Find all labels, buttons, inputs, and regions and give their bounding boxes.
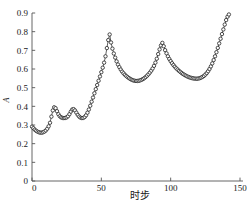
- data-point-marker: [213, 55, 216, 58]
- y-axis: [32, 13, 35, 181]
- y-tick-label: 0.5: [17, 83, 29, 93]
- data-point-marker: [47, 125, 50, 128]
- data-point-marker: [102, 61, 105, 64]
- data-point-marker: [48, 121, 51, 124]
- data-point-marker: [112, 52, 115, 55]
- data-point-marker: [223, 23, 226, 26]
- y-tick-label: 0.8: [17, 27, 29, 37]
- series-markers: [30, 13, 230, 135]
- data-point-marker: [215, 51, 218, 54]
- y-tick-label: 0: [24, 176, 29, 186]
- y-tick-label: 0.9: [17, 8, 29, 18]
- data-point-marker: [216, 46, 219, 49]
- series-line: [32, 14, 229, 132]
- chart-figure: 00.10.20.30.40.50.60.70.80.9 050100150 A…: [0, 0, 248, 203]
- data-point-marker: [94, 87, 97, 90]
- data-point-marker: [212, 58, 215, 61]
- x-tick-marks: [32, 178, 240, 181]
- x-tick-label: 50: [97, 183, 107, 193]
- data-point-marker: [101, 66, 104, 69]
- data-point-marker: [105, 46, 108, 49]
- data-point-marker: [97, 79, 100, 82]
- y-tick-marks: [32, 13, 35, 181]
- x-tick-label: 150: [233, 183, 247, 193]
- x-axis: [32, 178, 243, 181]
- chart-canvas: 00.10.20.30.40.50.60.70.80.9 050100150 A…: [0, 0, 248, 203]
- data-point-marker: [218, 42, 221, 45]
- data-point-marker: [95, 83, 98, 86]
- data-point-marker: [155, 57, 158, 60]
- y-axis-title: A: [2, 97, 11, 103]
- data-point-marker: [91, 96, 94, 99]
- y-tick-label: 0.2: [17, 139, 28, 149]
- data-point-marker: [224, 18, 227, 21]
- data-point-marker: [220, 32, 223, 35]
- y-tick-label: 0.1: [17, 158, 28, 168]
- data-point-marker: [211, 62, 214, 65]
- data-point-marker: [219, 37, 222, 40]
- data-point-marker: [100, 70, 103, 73]
- data-series: [30, 13, 230, 135]
- data-point-marker: [87, 108, 90, 111]
- data-point-marker: [98, 75, 101, 78]
- data-point-marker: [227, 13, 230, 16]
- data-point-marker: [104, 55, 107, 58]
- data-point-marker: [50, 115, 53, 118]
- data-point-marker: [158, 48, 161, 51]
- data-point-marker: [222, 28, 225, 31]
- y-tick-label: 0.4: [17, 102, 29, 112]
- data-point-marker: [93, 92, 96, 95]
- data-point-marker: [161, 41, 164, 44]
- data-point-marker: [156, 52, 159, 55]
- data-point-marker: [109, 41, 112, 44]
- y-tick-label: 0.7: [17, 46, 29, 56]
- y-tick-label: 0.3: [17, 120, 29, 130]
- data-point-marker: [90, 100, 93, 103]
- data-point-marker: [154, 61, 157, 64]
- data-point-marker: [89, 104, 92, 107]
- data-point-marker: [162, 45, 165, 48]
- x-tick-label: 0: [32, 183, 37, 193]
- x-axis-title: 时步: [130, 190, 150, 201]
- y-tick-label: 0.6: [17, 64, 29, 74]
- data-point-marker: [114, 56, 117, 59]
- y-tick-labels: 00.10.20.30.40.50.60.70.80.9: [17, 8, 29, 186]
- x-tick-label: 100: [164, 183, 178, 193]
- data-point-marker: [111, 47, 114, 50]
- data-point-marker: [108, 33, 111, 36]
